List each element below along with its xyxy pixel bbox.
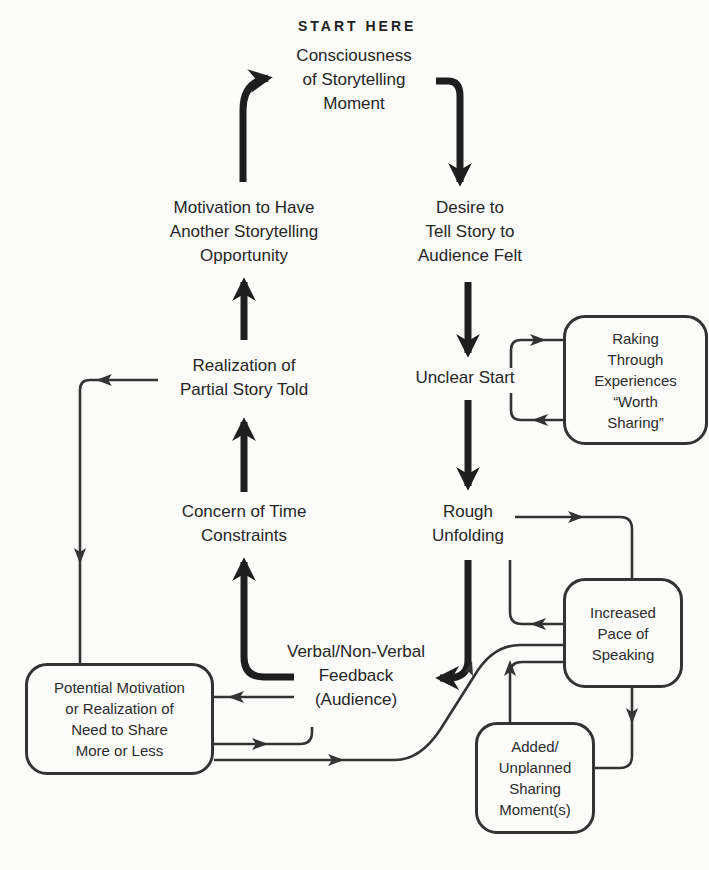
- box-label: or Realization of: [65, 698, 173, 719]
- node-rough-unfolding: Rough Unfolding: [418, 500, 518, 548]
- node-label: Opportunity: [150, 244, 338, 268]
- edge-rough-to-feedback: [440, 560, 468, 678]
- node-label: Audience Felt: [400, 244, 540, 268]
- box-raking-through-experiences: Raking Through Experiences “Worth Sharin…: [563, 315, 708, 445]
- box-label: Raking: [612, 328, 659, 349]
- edge-unclear-to-raking: [511, 340, 563, 368]
- box-label: Pace of: [598, 623, 649, 644]
- box-label: Sharing”: [607, 412, 664, 433]
- box-added-unplanned-sharing: Added/ Unplanned Sharing Moment(s): [475, 722, 595, 834]
- node-label: Feedback: [272, 664, 440, 688]
- node-feedback: Verbal/Non-Verbal Feedback (Audience): [272, 640, 440, 712]
- storytelling-cycle-diagram: START HERE Consciousness of Storytelling…: [0, 0, 709, 870]
- box-potential-motivation: Potential Motivation or Realization of N…: [25, 663, 214, 775]
- node-label: Realization of: [160, 354, 328, 378]
- node-label: Constraints: [164, 524, 324, 548]
- box-label: Sharing: [509, 778, 561, 799]
- edge-potential-to-feedback: [214, 727, 312, 744]
- node-label: of Storytelling: [270, 68, 438, 92]
- edge-rough-to-pace: [515, 517, 632, 578]
- box-label: Added/: [511, 736, 559, 757]
- edge-raking-to-unclear: [511, 393, 563, 420]
- node-label: Motivation to Have: [150, 196, 338, 220]
- box-increased-pace: Increased Pace of Speaking: [563, 578, 683, 688]
- node-label: Rough: [418, 500, 518, 524]
- node-motivation: Motivation to Have Another Storytelling …: [150, 196, 338, 268]
- box-label: Experiences: [594, 370, 677, 391]
- box-label: Unplanned: [499, 757, 572, 778]
- box-label: Potential Motivation: [54, 677, 185, 698]
- node-concern: Concern of Time Constraints: [164, 500, 324, 548]
- node-label: Concern of Time: [164, 500, 324, 524]
- node-label: Tell Story to: [400, 220, 540, 244]
- node-label: Partial Story Told: [160, 378, 328, 402]
- node-realization: Realization of Partial Story Told: [160, 354, 328, 402]
- edge-consciousness-to-desire: [436, 81, 460, 182]
- node-label: Unclear Start: [400, 366, 530, 390]
- edge-added-to-pace: [510, 662, 563, 722]
- edge-pace-to-rough: [510, 560, 563, 624]
- edge-realization-to-potential: [80, 380, 158, 663]
- edge-pace-to-added: [595, 688, 632, 768]
- node-label: Moment: [270, 92, 438, 116]
- node-unclear-start: Unclear Start: [400, 366, 530, 390]
- node-label: Unfolding: [418, 524, 518, 548]
- start-here-label: START HERE: [298, 18, 416, 34]
- node-label: Another Storytelling: [150, 220, 338, 244]
- edge-motivation-to-consciousness: [243, 78, 268, 182]
- box-label: Increased: [590, 602, 656, 623]
- box-label: Through: [608, 349, 664, 370]
- box-label: “Worth: [613, 391, 658, 412]
- node-consciousness: Consciousness of Storytelling Moment: [270, 44, 438, 116]
- box-label: Need to Share: [71, 719, 168, 740]
- box-label: Moment(s): [499, 799, 571, 820]
- node-label: Verbal/Non-Verbal: [272, 640, 440, 664]
- node-desire: Desire to Tell Story to Audience Felt: [400, 196, 540, 268]
- box-label: More or Less: [76, 740, 164, 761]
- box-label: Speaking: [592, 644, 655, 665]
- node-label: Desire to: [400, 196, 540, 220]
- node-label: Consciousness: [270, 44, 438, 68]
- node-label: (Audience): [272, 688, 440, 712]
